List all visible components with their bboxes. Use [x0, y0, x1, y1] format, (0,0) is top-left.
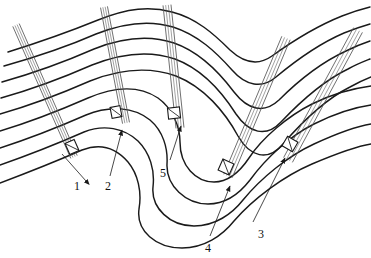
- callout-label-4: 4: [205, 242, 211, 254]
- borehole-3-corridor-line-3: [287, 29, 357, 159]
- callout-label-1: 1: [74, 180, 80, 192]
- callout-label-3: 3: [258, 228, 264, 240]
- borehole-1-leader-line: [62, 154, 86, 181]
- borehole-5[interactable]: [163, 5, 184, 160]
- callout-label-5: 5: [160, 167, 166, 179]
- borehole-2-leader-line: [110, 130, 122, 176]
- strata-line-8: [0, 124, 371, 226]
- borehole-3-leader-line: [253, 158, 285, 222]
- strata-line-6: [0, 86, 371, 182]
- borehole-2-corridor-line-1: [107, 6, 129, 122]
- borehole-2-corridor-line-3: [103, 7, 125, 123]
- borehole-4-corridor-line-2: [229, 39, 287, 177]
- strata-line-9: [0, 144, 371, 248]
- borehole-4-corridor-line-3: [227, 37, 285, 175]
- borehole-group: [13, 5, 363, 236]
- figure-canvas: 12345: [0, 0, 371, 258]
- strata-bedding-lines: [0, 7, 371, 248]
- borehole-3-corridor-line-2: [289, 31, 359, 161]
- borehole-3[interactable]: [253, 28, 362, 222]
- borehole-3-corridor-line-1: [292, 32, 362, 162]
- geological-cross-section-svg: [0, 0, 371, 258]
- borehole-4[interactable]: [210, 36, 290, 236]
- borehole-3-corridor-line-4: [284, 28, 354, 158]
- strata-line-2: [4, 23, 370, 84]
- borehole-2-corridor-line-2: [105, 7, 127, 123]
- callout-label-2: 2: [105, 180, 111, 192]
